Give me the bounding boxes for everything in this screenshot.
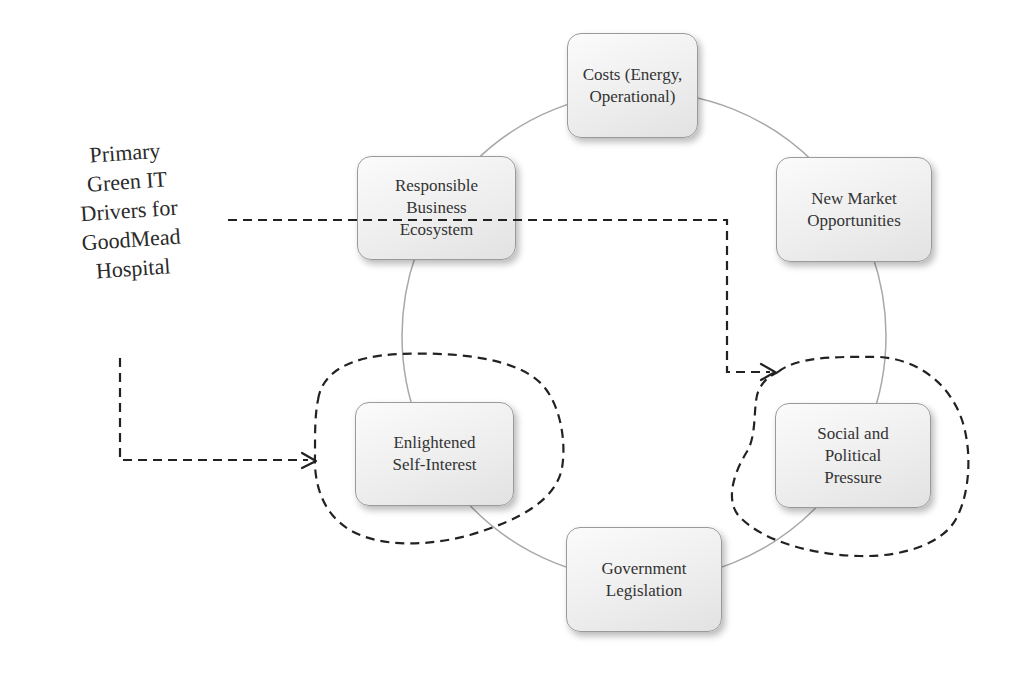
- dashed-overlay-layer: [0, 0, 1021, 679]
- dashed-arrow-to-social-political: [228, 220, 770, 372]
- highlight-outline-enlightened: [315, 354, 564, 544]
- dashed-arrow-to-enlightened: [120, 358, 308, 460]
- highlight-outline-social-political: [732, 357, 968, 556]
- green-it-drivers-diagram: Primary Green IT Drivers for GoodMead Ho…: [0, 0, 1021, 679]
